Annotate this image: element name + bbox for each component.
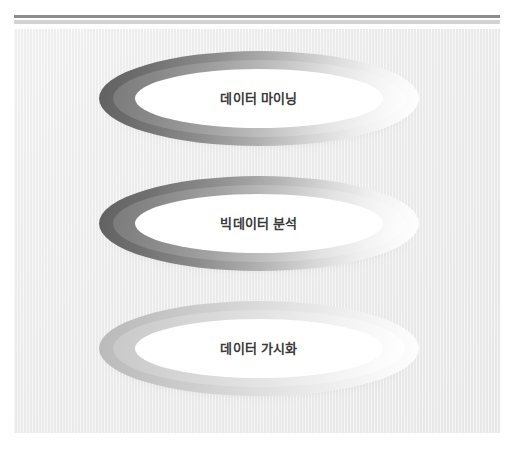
slide-top-rules [14,15,500,29]
ellipse-data-visualization[interactable]: 데이터 가시화 [99,301,419,396]
ellipse-center: 데이터 가시화 [135,319,383,378]
ellipse-data-mining[interactable]: 데이터 마이닝 [99,51,419,146]
ellipse-big-data-analysis[interactable]: 빅데이터 분석 [99,176,419,271]
ellipse-label: 빅데이터 분석 [220,217,297,230]
ellipse-center: 빅데이터 분석 [135,194,383,253]
ellipse-center: 데이터 마이닝 [135,69,383,128]
slide-panel: 데이터 마이닝 빅데이터 분석 데이터 가시화 [14,29,500,433]
ellipse-label: 데이터 마이닝 [220,92,297,105]
top-rule-light [14,20,500,24]
top-rule-dark [14,15,500,18]
ellipse-label: 데이터 가시화 [220,342,297,355]
